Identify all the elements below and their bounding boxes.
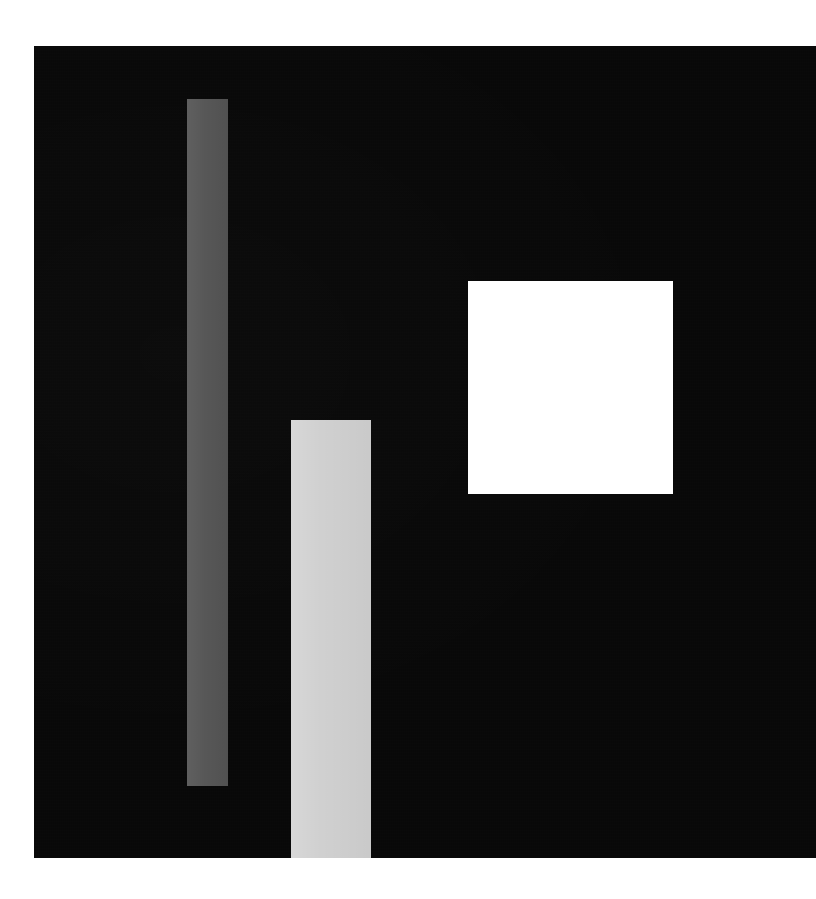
artwork-canvas [0,0,816,899]
white-square [468,281,673,494]
dark-backdrop-panel [34,46,816,858]
light-gray-vertical-bar [291,420,371,858]
dark-gray-vertical-bar [187,99,228,786]
panel-grain-overlay [34,46,816,858]
